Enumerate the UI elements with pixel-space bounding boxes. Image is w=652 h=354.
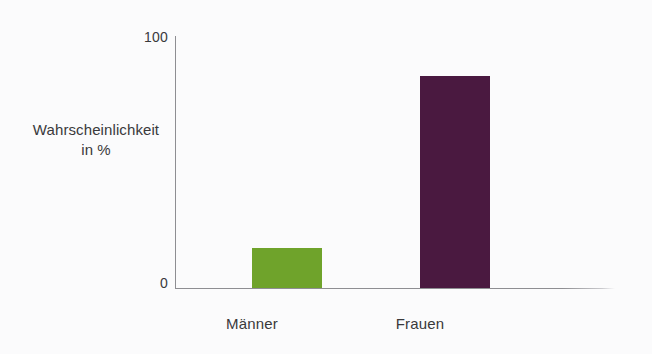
y-axis-tick-100: 100 — [108, 29, 168, 45]
plot-area — [175, 36, 615, 288]
bar-chart: Wahrscheinlichkeit in % 100 0 Männer Fra… — [0, 0, 652, 354]
y-axis-title-line-2: in % — [22, 140, 170, 160]
y-axis-title: Wahrscheinlichkeit in % — [22, 120, 170, 160]
y-axis-title-line-1: Wahrscheinlichkeit — [33, 121, 159, 138]
y-axis-tick-0: 0 — [108, 275, 168, 291]
bar-frauen — [420, 76, 490, 288]
x-axis-category-label-maenner: Männer — [182, 315, 322, 332]
x-axis-line — [175, 288, 615, 289]
bar-maenner — [252, 248, 322, 288]
x-axis-category-label-frauen: Frauen — [350, 315, 490, 332]
